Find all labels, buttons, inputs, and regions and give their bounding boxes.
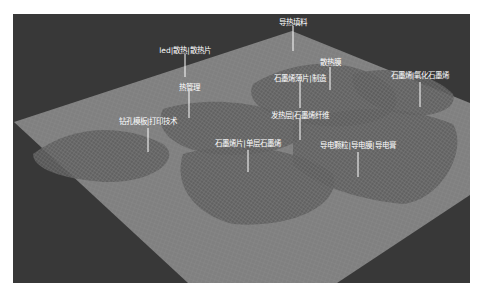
cluster-label-text: 石墨烯片|单层石墨烯 — [215, 138, 282, 148]
cluster-label-text: 钻孔模板|打印技术 — [119, 116, 179, 126]
terrain-map: 导热填料led|散热|散热片散热膜热管理石墨烯薄片|制造石墨烯|氧化石墨烯钻孔模… — [13, 14, 470, 283]
cluster-label-text: 导热填料 — [279, 17, 308, 27]
cluster-label-text: 石墨烯薄片|制造 — [274, 73, 327, 83]
cluster-label-text: 热管理 — [179, 82, 201, 92]
cluster-label-text: 石墨烯|氧化石墨烯 — [391, 70, 451, 80]
terrain-map-frame: 导热填料led|散热|散热片散热膜热管理石墨烯薄片|制造石墨烯|氧化石墨烯钻孔模… — [13, 14, 470, 283]
cluster-label-text: led|散热|散热片 — [159, 45, 211, 55]
cluster-label-text: 散热膜 — [320, 57, 342, 67]
cluster-label-text: 导电颗粒|导电膜|导电膏 — [320, 140, 396, 150]
cluster-label-text: 发热层|石墨烯纤维 — [271, 110, 331, 120]
